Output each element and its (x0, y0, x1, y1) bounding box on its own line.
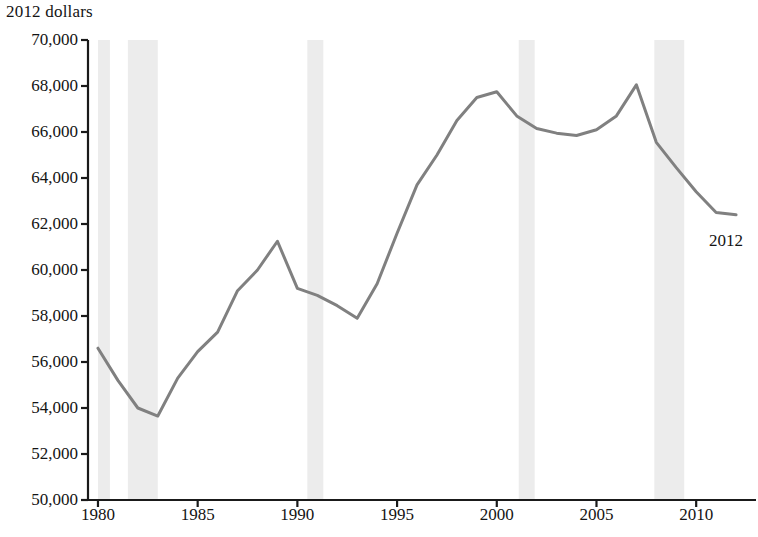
series-line-2012-dollars (98, 85, 736, 416)
chart-container: 2012 dollars 70,00068,00066,00064,00062,… (0, 0, 758, 537)
recession-band (98, 40, 110, 500)
recession-band (128, 40, 158, 500)
recession-band (307, 40, 323, 500)
data-series-line (98, 85, 736, 416)
recession-band (654, 40, 684, 500)
recession-shading-bands (98, 40, 684, 500)
axis-tick-marks (81, 40, 696, 507)
plot-area (0, 0, 758, 537)
recession-band (519, 40, 535, 500)
